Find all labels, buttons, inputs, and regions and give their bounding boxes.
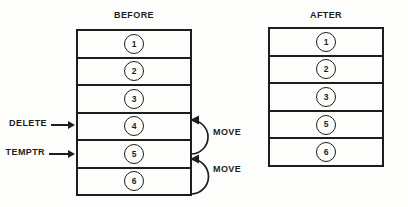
stack-row: 6 [270,137,382,165]
item-circle: 4 [124,116,144,136]
stack-row: 4 [78,112,190,140]
before-after-diagram: BEFORE 1 2 3 4 5 6 DELETE TEMPTR MOVE M [0,0,408,207]
move-arc-up-2-icon [191,159,209,194]
item-circle: 3 [316,87,336,107]
item-circle: 2 [316,59,336,79]
item-circle: 1 [124,34,144,54]
stack-row: 2 [78,57,190,85]
left-arrowhead-icon [190,155,199,164]
stack-row: 2 [270,55,382,83]
temptr-pointer-arrow [49,153,69,155]
stack-row: 6 [78,167,190,195]
stack-row: 3 [78,84,190,112]
stack-row: 1 [78,31,190,57]
move-arc-up-1-icon [191,120,208,154]
item-circle: 6 [316,142,336,162]
left-arrowhead-icon [190,116,199,125]
item-circle: 5 [316,115,336,135]
temptr-pointer-label: TEMPTR [0,148,45,157]
item-circle: 5 [124,144,144,164]
item-circle: 3 [124,89,144,109]
delete-pointer-arrow [51,124,69,126]
item-circle: 2 [124,61,144,81]
stack-row: 5 [78,139,190,167]
after-stack: 1 2 3 5 6 [268,27,384,167]
right-arrowhead-icon [68,121,75,129]
after-title: AFTER [268,11,384,20]
delete-pointer-label: DELETE [0,119,47,128]
move-arrows-graphic [183,110,243,205]
right-arrowhead-icon [68,150,75,158]
stack-row: 3 [270,82,382,110]
item-circle: 1 [316,32,336,52]
stack-row: 5 [270,110,382,138]
item-circle: 6 [124,171,144,191]
move-label: MOVE [213,128,241,137]
before-stack: 1 2 3 4 5 6 [76,29,192,196]
before-title: BEFORE [76,11,192,20]
move-label: MOVE [213,165,241,174]
stack-row: 1 [270,29,382,55]
